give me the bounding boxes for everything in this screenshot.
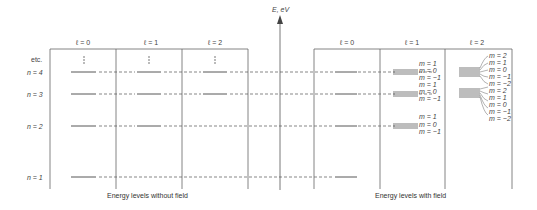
svg-text:m = −1: m = −1 bbox=[419, 95, 441, 102]
svg-text:m = 0: m = 0 bbox=[489, 66, 507, 73]
row-label-n4: n = 4 bbox=[27, 69, 43, 76]
row-label-etc: etc. bbox=[31, 56, 42, 63]
row-label-n3: n = 3 bbox=[27, 91, 43, 98]
svg-text:m = 0: m = 0 bbox=[419, 88, 437, 95]
svg-text:m = 1: m = 1 bbox=[419, 81, 437, 88]
levels-with-field-l2 bbox=[459, 68, 480, 97]
m-labels-l1: m = 1 m = 0 m = −1 m = 1 m = 0 m = −1 m … bbox=[419, 60, 441, 135]
energy-axis: E, eV bbox=[272, 6, 290, 190]
svg-text:m = 0: m = 0 bbox=[489, 101, 507, 108]
svg-text:m = −2: m = −2 bbox=[489, 80, 511, 87]
levels-without-field bbox=[71, 72, 227, 177]
right-col-l1: ℓ = 1 bbox=[404, 39, 419, 46]
m-leader-lines-l2 bbox=[480, 56, 488, 115]
energy-level-diagram: E, eV ℓ = 0 ℓ = 1 ℓ = 2 Energy levels wi… bbox=[0, 0, 537, 210]
svg-text:m = 0: m = 0 bbox=[419, 67, 437, 74]
levels-with-field-l1 bbox=[393, 70, 418, 128]
row-label-n1: n = 1 bbox=[27, 174, 43, 181]
right-col-l2: ℓ = 2 bbox=[469, 39, 484, 46]
right-col-l0: ℓ = 0 bbox=[339, 39, 354, 46]
svg-text:m = 2: m = 2 bbox=[489, 87, 507, 94]
arrowhead-icon bbox=[277, 15, 283, 24]
row-label-n2: n = 2 bbox=[27, 123, 43, 130]
svg-text:m = 1: m = 1 bbox=[419, 113, 437, 120]
svg-text:m = −1: m = −1 bbox=[419, 128, 441, 135]
m-labels-l2: m = 2 m = 1 m = 0 m = −1 m = −2 m = 2 m … bbox=[489, 52, 511, 122]
svg-text:m = −2: m = −2 bbox=[489, 115, 511, 122]
left-col-l1: ℓ = 1 bbox=[143, 39, 158, 46]
right-caption: Energy levels with field bbox=[375, 192, 446, 200]
svg-text:m = 1: m = 1 bbox=[489, 94, 507, 101]
svg-text:m = 0: m = 0 bbox=[419, 121, 437, 128]
left-col-l2: ℓ = 2 bbox=[207, 39, 222, 46]
left-caption: Energy levels without field bbox=[107, 192, 188, 200]
svg-text:m = 2: m = 2 bbox=[489, 52, 507, 59]
levels-with-field-l0 bbox=[335, 72, 357, 177]
left-col-l0: ℓ = 0 bbox=[75, 39, 90, 46]
left-panel bbox=[50, 49, 248, 189]
svg-text:m = 1: m = 1 bbox=[419, 60, 437, 67]
svg-text:m = −1: m = −1 bbox=[489, 73, 511, 80]
dashed-connectors bbox=[99, 72, 434, 177]
svg-text:m = −1: m = −1 bbox=[489, 108, 511, 115]
ellipsis-icons bbox=[83, 56, 215, 63]
axis-label: E, eV bbox=[272, 6, 290, 13]
svg-text:m = 1: m = 1 bbox=[489, 59, 507, 66]
svg-text:m = −1: m = −1 bbox=[419, 74, 441, 81]
